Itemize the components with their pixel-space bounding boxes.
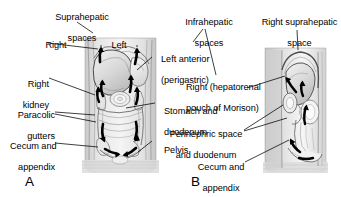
label-right-suprahepatic: Right xyxy=(29,30,73,61)
panel-id-b: B xyxy=(191,175,200,189)
label-right-hepatorenal-pouch-of-morison: Right (hepatorenal pouch of Morison) xyxy=(176,72,268,123)
anatomy-figure: Suprahepatic spaces Right Left Right kid… xyxy=(0,0,341,197)
label-right-suprahepatic-space: Right suprahepatic space xyxy=(248,7,341,58)
panel-b-illustration xyxy=(263,48,328,173)
label-infrahepatic-spaces: Infrahepatic spaces xyxy=(160,7,248,58)
panel-id-a: A xyxy=(25,175,34,189)
label-left-suprahepatic: Left xyxy=(92,30,136,61)
